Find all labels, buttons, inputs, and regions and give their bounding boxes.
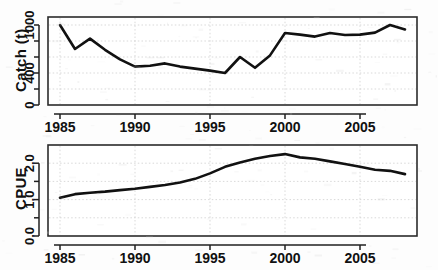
cpue-y-tick-label: 1.0: [22, 191, 37, 209]
cpue-x-tick-label: 1995: [194, 250, 225, 266]
cpue-y-tick-label: 2.0: [22, 154, 37, 172]
figure-root: Catch (t) 0400100019851990199520002005 C…: [0, 0, 438, 270]
catch-frame: [48, 17, 417, 105]
catch-y-tick-label: 1000: [22, 11, 37, 40]
catch-y-tick-label: 400: [22, 62, 37, 84]
catch-y-tick-label: 0: [22, 101, 37, 108]
cpue-x-tick-label: 2005: [344, 250, 375, 266]
panel-cpue: CPUE 0.01.02.019851990199520002005: [0, 133, 438, 270]
cpue-x-tick-label: 1985: [44, 250, 75, 266]
cpue-x-tick-label: 2000: [269, 250, 300, 266]
catch-plot: 0400100019851990199520002005: [0, 0, 438, 135]
panel-catch: Catch (t) 0400100019851990199520002005: [0, 0, 438, 135]
cpue-y-tick-label: 0.0: [22, 227, 37, 245]
cpue-plot: 0.01.02.019851990199520002005: [0, 133, 438, 270]
cpue-x-tick-label: 1990: [119, 250, 150, 266]
